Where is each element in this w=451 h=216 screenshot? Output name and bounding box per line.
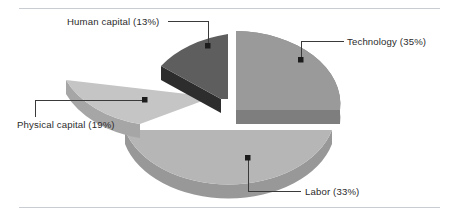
pie-label-physical-capital: Physical capital (19%)	[17, 119, 115, 131]
marker-physical	[142, 97, 148, 103]
marker-labor	[245, 155, 251, 161]
chart-figure: Human capital (13%) Technology (35%) Phy…	[0, 0, 451, 216]
pie-label-labor: Labor (33%)	[305, 186, 359, 198]
pie-slice-labor[interactable]	[125, 130, 332, 198]
marker-human	[205, 43, 211, 49]
marker-technology	[298, 57, 304, 63]
pie-label-technology: Technology (35%)	[347, 36, 426, 48]
pie-slice-technology-top	[236, 31, 340, 110]
pie-slice-technology[interactable]	[236, 31, 340, 124]
pie-chart-graphic	[0, 0, 451, 216]
pie-slice-technology-side-inner	[236, 110, 340, 124]
pie-label-human-capital: Human capital (13%)	[67, 16, 159, 28]
